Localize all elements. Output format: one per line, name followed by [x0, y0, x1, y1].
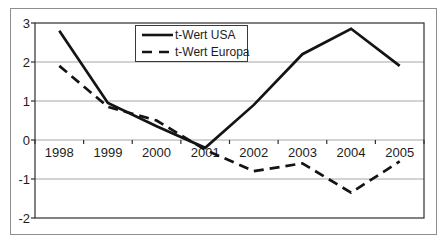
legend-label-usa: t-Wert USA	[175, 27, 235, 44]
y-tick-label: -1	[18, 172, 30, 187]
series-line-europa	[59, 66, 399, 193]
x-tick-label: 2004	[337, 145, 366, 160]
legend-solid-line-icon	[141, 28, 174, 42]
legend-label-europa: t-Wert Europa	[175, 44, 249, 61]
y-tick-label: 3	[23, 16, 30, 31]
legend-dashed-line-icon	[141, 45, 174, 59]
x-tick-label: 1999	[93, 145, 122, 160]
chart-figure: 3210-1-219981999200020012002200320042005…	[0, 0, 441, 243]
chart-legend: t-Wert USA t-Wert Europa	[135, 25, 248, 62]
y-tick-label: -2	[18, 211, 30, 226]
x-tick-label: 1998	[45, 145, 74, 160]
x-tick-label: 2005	[385, 145, 414, 160]
legend-entry-europa: t-Wert Europa	[141, 44, 247, 61]
y-tick-label: 2	[23, 55, 30, 70]
y-tick-label: 0	[23, 133, 30, 148]
x-tick-label: 2002	[239, 145, 268, 160]
y-tick-label: 1	[23, 94, 30, 109]
x-tick-label: 2000	[142, 145, 171, 160]
legend-entry-usa: t-Wert USA	[141, 27, 247, 44]
x-tick-label: 2003	[288, 145, 317, 160]
